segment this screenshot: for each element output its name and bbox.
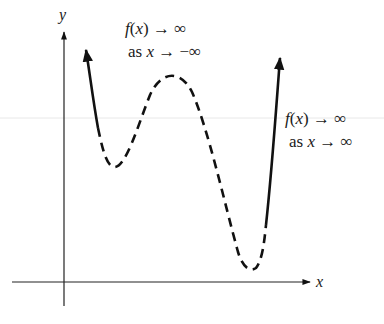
left-end-behavior-arrow <box>86 50 98 128</box>
curve-dashed-middle <box>98 76 266 270</box>
annotation-right-line2: as x → ∞ <box>289 132 353 151</box>
x-axis-label: x <box>315 273 323 290</box>
annotation-right-line1: f(x) → ∞ <box>285 109 346 128</box>
annotation-right-end: f(x) → ∞ as x → ∞ <box>285 109 353 151</box>
annotation-left-line2: as x → −∞ <box>128 42 201 61</box>
annotation-left-end: f(x) → ∞ as x → −∞ <box>125 19 201 61</box>
polynomial-end-behavior-diagram: y x f(x) → ∞ as x → −∞ f(x) → ∞ as x → ∞ <box>0 0 384 324</box>
annotation-left-line1: f(x) → ∞ <box>125 19 186 38</box>
y-axis-label: y <box>57 6 67 24</box>
right-end-behavior-arrow <box>266 58 280 225</box>
